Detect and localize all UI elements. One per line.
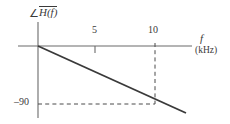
x-axis-label-symbol: f: [200, 33, 203, 44]
phase-response-figure: ∠H(f) 5 10 f (kHz) –90: [0, 0, 230, 124]
phase-response-line: [38, 46, 186, 113]
x-axis-label-unit: (kHz): [195, 46, 217, 56]
angle-icon: ∠: [29, 8, 39, 19]
y-tick-label-neg90: –90: [14, 97, 29, 107]
x-tick-label-5: 5: [92, 25, 97, 35]
x-tick-label-10: 10: [148, 25, 158, 35]
y-axis-label-function: H(f): [39, 6, 57, 19]
y-axis-label: ∠H(f): [29, 6, 57, 19]
